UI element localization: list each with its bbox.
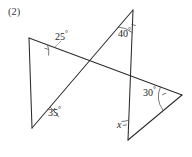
angle-label-30-value: 30 [143, 87, 153, 98]
angle-label-40: 40° [118, 27, 131, 39]
degree-symbol-30: ° [153, 85, 156, 94]
angle-label-35: 35° [48, 106, 61, 118]
arc-angle-30 [158, 87, 162, 110]
edge-right-to-left [29, 38, 182, 95]
tick-angle-x [123, 125, 127, 126]
angle-label-30: 30° [143, 86, 156, 98]
star-edges [29, 10, 182, 140]
edge-bottomleft-to-left [29, 38, 32, 128]
tick-angle-30 [162, 93, 166, 95]
degree-symbol-25: ° [65, 29, 68, 38]
star-polygon-svg [0, 0, 192, 157]
arc-angle-25 [48, 45, 49, 56]
degree-symbol-35: ° [58, 105, 61, 114]
angle-label-25-value: 25 [55, 31, 65, 42]
angle-label-x: x [117, 120, 121, 130]
angle-label-40-value: 40 [118, 28, 128, 39]
angle-label-35-value: 35 [48, 107, 58, 118]
angle-label-25: 25° [55, 30, 68, 42]
star-angle-figure: (2) 25° 40° 30° 35° x [0, 0, 192, 157]
tick-angle-25 [45, 48, 49, 49]
degree-symbol-40: ° [128, 26, 131, 35]
item-number-label: (2) [8, 7, 20, 18]
arc-angle-x [121, 120, 129, 122]
edge-right-to-bottom [128, 95, 182, 140]
